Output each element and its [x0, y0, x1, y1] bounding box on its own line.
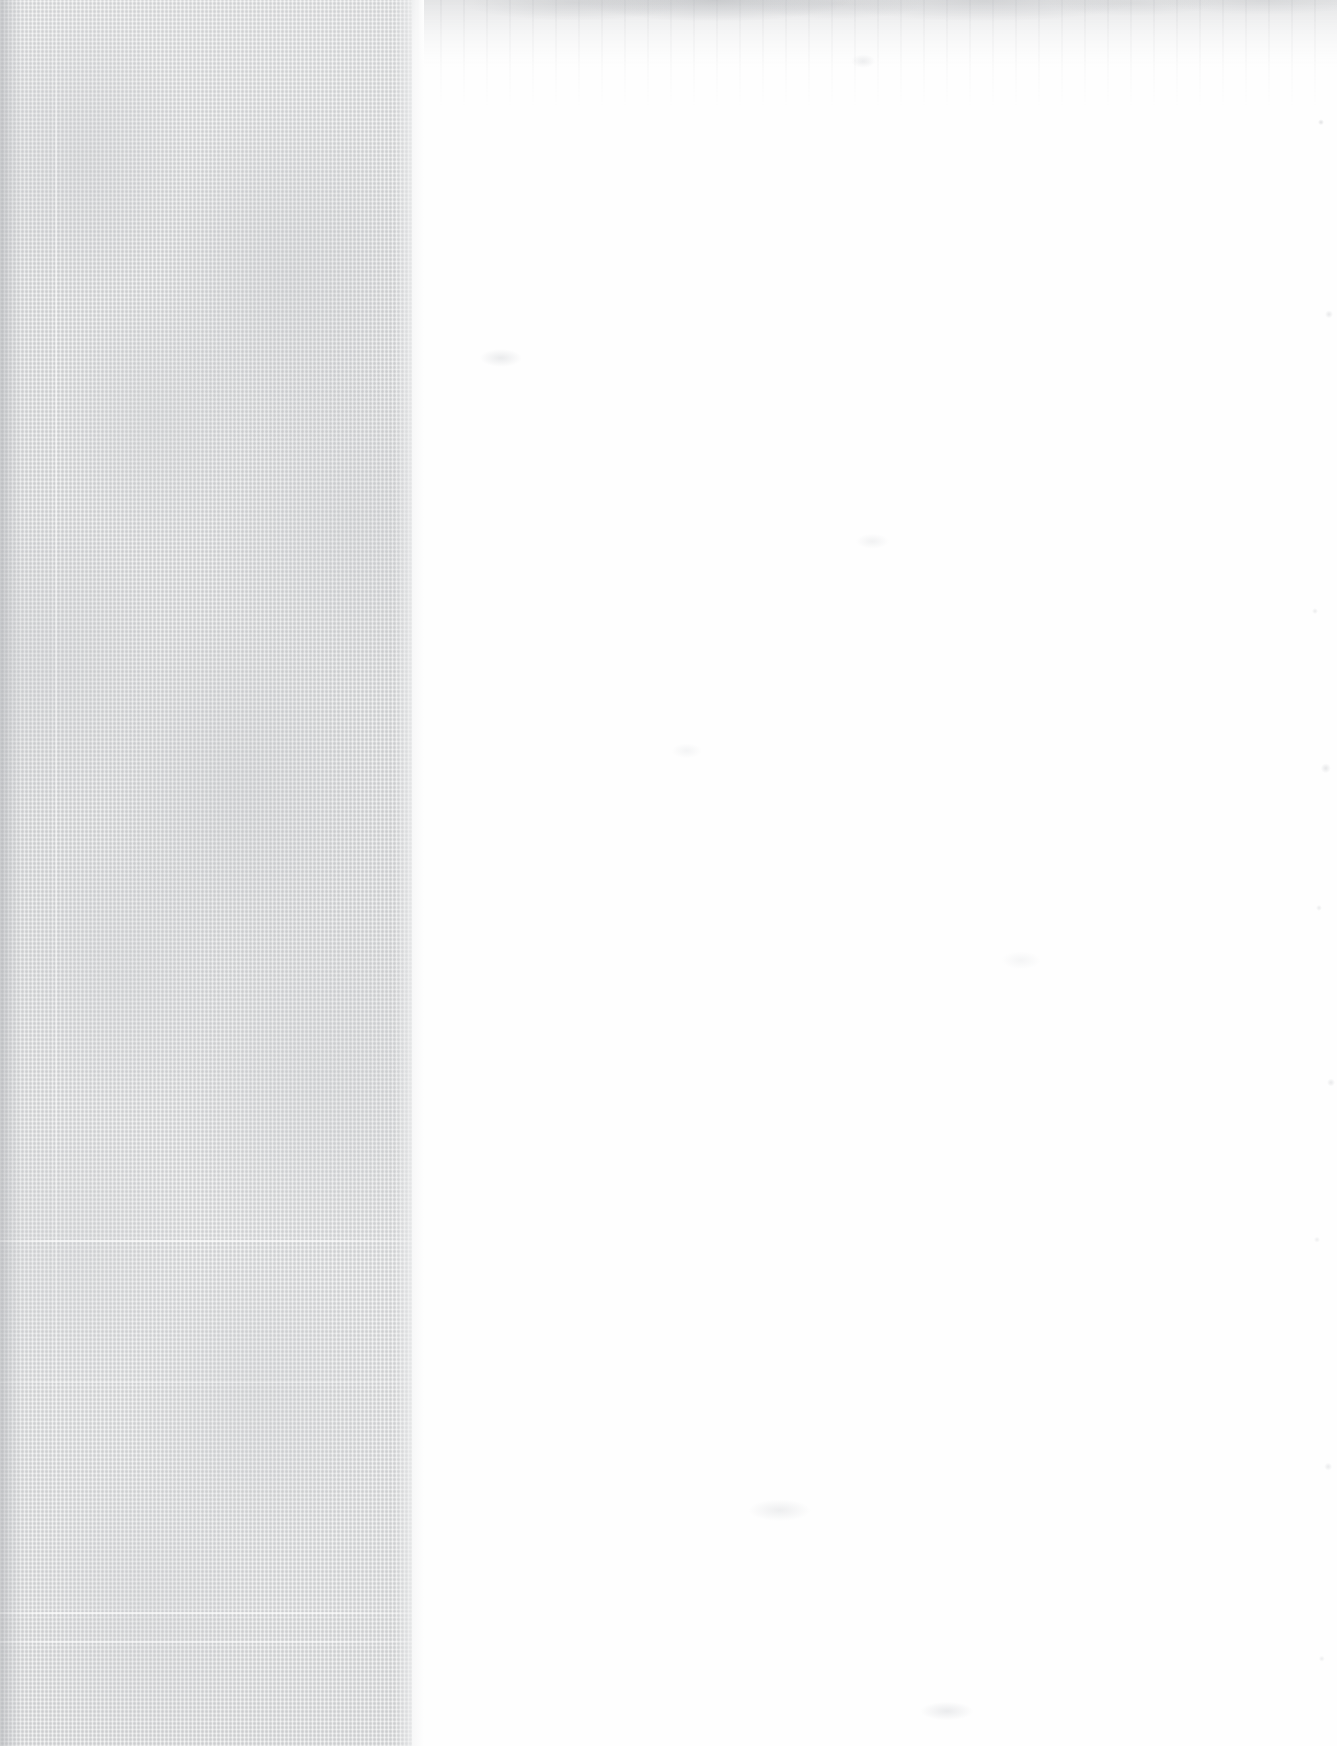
gutter-texture-band: [0, 0, 412, 1746]
scanned-page: [0, 0, 1337, 1746]
